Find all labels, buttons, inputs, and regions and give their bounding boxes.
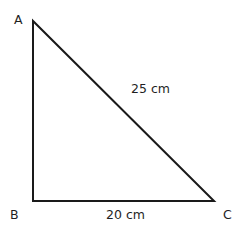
triangle-diagram: A B C 25 cm 20 cm — [0, 0, 241, 231]
vertex-label-c: C — [223, 209, 232, 222]
vertex-label-b: B — [10, 209, 19, 222]
base-length-label: 20 cm — [106, 209, 145, 222]
hypotenuse-length-label: 25 cm — [131, 83, 170, 96]
triangle-outline — [33, 21, 214, 201]
vertex-label-a: A — [14, 14, 23, 27]
triangle-svg — [0, 0, 241, 231]
